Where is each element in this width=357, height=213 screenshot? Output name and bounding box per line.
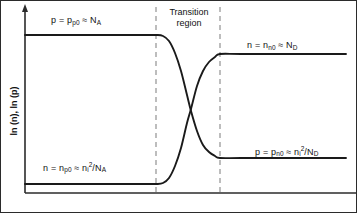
y-axis-title: ln (n), ln (p) <box>9 61 19 161</box>
transition-region-label: Transition region <box>159 7 219 29</box>
label-p-majority-pside-lhs-sub: p0 <box>72 19 79 26</box>
label-n-minority-pside-approx: ≈ n <box>72 163 88 173</box>
label-p-majority-pside-lhs: p = p <box>51 15 72 25</box>
label-p-majority-pside-approx-sub: A <box>97 19 101 26</box>
label-p-minority-nside-lhs: p = p <box>255 147 276 157</box>
label-n-majority-nside-lhs-sub: n0 <box>268 44 275 51</box>
carrier-concentration-figure: ln (n), ln (p) Transition region p = pp0… <box>0 0 357 213</box>
label-p-minority-nside-tail: /N <box>304 147 313 157</box>
y-axis <box>22 4 28 193</box>
label-n-minority-pside-lhs-sub: p0 <box>64 166 71 173</box>
label-n-minority-pside-tail-sub: A <box>102 166 106 173</box>
transition-region-line2: region <box>176 18 201 28</box>
label-n-majority-nside-approx-sub: D <box>293 44 298 51</box>
label-p-majority-pside-approx: ≈ N <box>80 15 97 25</box>
label-p-minority-nside-approx: ≈ n <box>284 147 300 157</box>
transition-region-line1: Transition <box>169 7 208 17</box>
label-p-majority-pside: p = pp0 ≈ NA <box>51 15 101 26</box>
label-n-minority-pside-lhs: n = n <box>43 163 64 173</box>
label-p-minority-nside-lhs-sub: n0 <box>276 150 283 157</box>
label-n-minority-pside-tail: /N <box>92 163 101 173</box>
label-p-minority-nside-tail-sub: D <box>314 150 319 157</box>
label-n-minority-pside: n = np0 ≈ ni2/NA <box>43 161 106 173</box>
label-n-majority-nside-lhs: n = n <box>247 40 268 50</box>
label-n-majority-nside-approx: ≈ N <box>276 40 293 50</box>
label-p-minority-nside: p = pn0 ≈ ni2/ND <box>255 145 318 157</box>
label-n-majority-nside: n = nn0 ≈ ND <box>247 40 297 51</box>
plot-canvas <box>1 1 357 213</box>
